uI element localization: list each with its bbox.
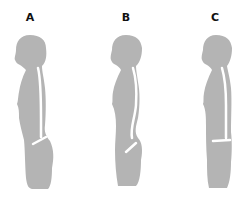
figure-a-silhouette (15, 35, 54, 189)
posture-diagram (0, 0, 243, 197)
figure-c-silhouette (202, 35, 232, 188)
figure-b-silhouette (111, 35, 142, 186)
figure-c-pelvis (213, 140, 230, 141)
